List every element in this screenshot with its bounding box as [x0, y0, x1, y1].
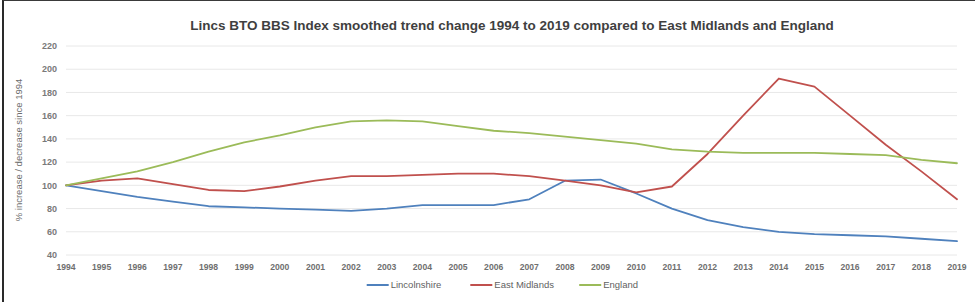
legend-label-east-midlands: East Midlands: [494, 279, 554, 290]
x-tick-label: 2014: [769, 262, 788, 272]
x-tick-label: 2001: [306, 262, 325, 272]
x-tick-label: 2007: [520, 262, 539, 272]
x-tick-label: 1998: [199, 262, 218, 272]
legend-label-england: England: [603, 279, 638, 290]
y-tick-label: 140: [42, 134, 57, 144]
x-tick-label: 2005: [448, 262, 467, 272]
x-tick-label: 2009: [591, 262, 610, 272]
y-tick-label: 40: [47, 250, 57, 260]
line-chart: Lincs BTO BBS Index smoothed trend chang…: [0, 0, 975, 302]
x-tick-label: 2018: [912, 262, 931, 272]
x-tick-label: 1996: [128, 262, 147, 272]
x-tick-label: 2003: [377, 262, 396, 272]
chart-title: Lincs BTO BBS Index smoothed trend chang…: [190, 18, 833, 33]
y-tick-label: 60: [47, 227, 57, 237]
x-tick-label: 2012: [698, 262, 717, 272]
x-tick-label: 2000: [270, 262, 289, 272]
chart-container: Lincs BTO BBS Index smoothed trend chang…: [0, 0, 975, 302]
x-tick-label: 2019: [947, 262, 966, 272]
y-tick-label: 100: [42, 181, 57, 191]
x-tick-label: 2008: [555, 262, 574, 272]
x-tick-label: 2011: [663, 262, 682, 272]
x-tick-label: 2017: [876, 262, 895, 272]
x-tick-label: 2002: [342, 262, 361, 272]
x-tick-label: 2010: [627, 262, 646, 272]
y-tick-label: 160: [42, 111, 57, 121]
x-tick-label: 2013: [734, 262, 753, 272]
y-tick-label: 220: [42, 41, 57, 51]
x-tick-label: 1994: [56, 262, 75, 272]
x-tick-label: 2015: [805, 262, 824, 272]
x-tick-label: 2016: [841, 262, 860, 272]
y-tick-label: 80: [47, 204, 57, 214]
y-tick-label: 120: [42, 157, 57, 167]
x-tick-label: 2004: [413, 262, 432, 272]
y-tick-label: 180: [42, 88, 57, 98]
chart-background: [0, 0, 975, 302]
legend-label-lincolnshire: Lincolnshire: [391, 279, 442, 290]
x-tick-label: 2006: [484, 262, 503, 272]
y-axis-title: % increase / decrease since 1994: [13, 79, 24, 222]
x-tick-label: 1995: [92, 262, 111, 272]
x-tick-label: 1997: [163, 262, 182, 272]
x-tick-label: 1999: [235, 262, 254, 272]
y-tick-label: 200: [42, 64, 57, 74]
